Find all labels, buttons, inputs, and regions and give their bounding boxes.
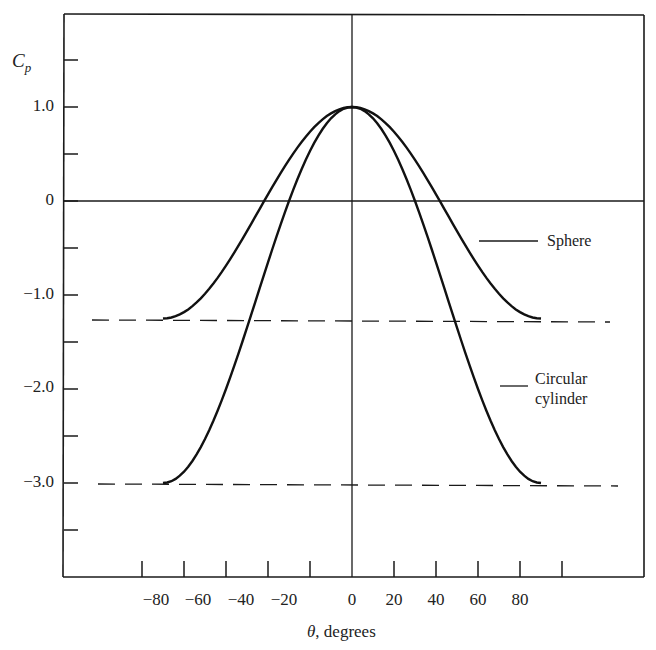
x-tick-label: −40 (221, 590, 261, 610)
cylinder-annotation-line1: Circular (535, 369, 587, 389)
x-tick-label: 40 (416, 590, 456, 610)
x-tick-label: 20 (374, 590, 414, 610)
cylinder-annotation-line2: cylinder (535, 389, 587, 409)
x-tick-label: 60 (458, 590, 498, 610)
y-tick-label: 0 (0, 190, 54, 210)
x-tick-label: 0 (332, 590, 372, 610)
y-axis-label-sub: p (25, 60, 32, 75)
y-tick-label: −2.0 (0, 377, 54, 397)
y-tick-marks (64, 60, 78, 530)
x-tick-label: −20 (264, 590, 304, 610)
y-axis-label-main: C (12, 50, 25, 71)
zero-axes (64, 14, 644, 577)
x-axis-label: θ, degrees (307, 622, 376, 642)
y-axis-label: Cp (12, 50, 31, 76)
y-tick-label: −3.0 (0, 472, 54, 492)
sphere-min-dashed-line (92, 320, 610, 322)
x-tick-label: 80 (500, 590, 540, 610)
plot-frame (63, 14, 644, 577)
y-tick-label: 1.0 (0, 96, 54, 116)
cylinder-min-dashed-line (98, 484, 618, 486)
x-tick-label: −80 (136, 590, 176, 610)
sphere-annotation: Sphere (547, 231, 591, 251)
y-tick-label: −1.0 (0, 284, 54, 304)
x-tick-label: −60 (178, 590, 218, 610)
cylinder-annotation: Circular cylinder (535, 369, 587, 409)
x-axis-label-text: , degrees (315, 622, 375, 641)
chart-canvas (0, 0, 656, 650)
